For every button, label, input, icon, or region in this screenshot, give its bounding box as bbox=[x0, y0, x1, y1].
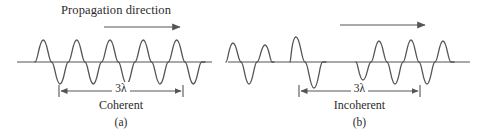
panel-sublabel-b: (b) bbox=[299, 116, 420, 128]
wavelength-label-a: 3λ bbox=[59, 82, 183, 94]
propagation-direction-label: Propagation direction bbox=[0, 3, 232, 18]
panel-name-b: Incoherent bbox=[299, 98, 420, 113]
coherence-figure: Propagation direction 3λ Coherent (a) 3λ… bbox=[0, 0, 482, 139]
panel-sublabel-a: (a) bbox=[59, 116, 183, 128]
incoherent-waveform-packet-1 bbox=[226, 43, 274, 84]
wavelength-label-b: 3λ bbox=[299, 82, 420, 94]
wavelength-value-b: 3λ bbox=[351, 82, 368, 94]
panel-name-a: Coherent bbox=[59, 98, 183, 113]
wavelength-value-a: 3λ bbox=[112, 82, 129, 94]
